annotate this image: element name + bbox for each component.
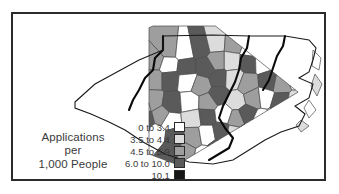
map-frame: Applications per 1,000 People 0 to 3.43.… — [11, 12, 326, 181]
legend-key-row: 6.0 to 10.0 — [125, 157, 185, 169]
county-region — [177, 58, 196, 75]
legend-key-swatch — [174, 146, 185, 156]
legend-key-label: 10.1 — [151, 170, 170, 181]
legend-key-label: 6.0 to 10.0 — [125, 158, 170, 169]
legend-title: Applications per 1,000 People — [27, 131, 119, 172]
county-region — [273, 75, 292, 93]
legend-key-swatch — [174, 170, 185, 180]
barrier-island-region — [304, 100, 316, 118]
legend-key-list: 0 to 3.43.5 to 4.44.5 to 5.96.0 to 10.01… — [125, 121, 185, 181]
legend-key-label: 4.5 to 5.9 — [130, 146, 170, 157]
county-region — [162, 72, 179, 92]
legend-key-swatch — [174, 122, 185, 132]
legend-title-line-2: per — [27, 144, 119, 158]
legend-key-label: 3.5 to 4.4 — [130, 134, 170, 145]
legend-title-line-3: 1,000 People — [27, 158, 119, 172]
legend-title-line-1: Applications — [27, 131, 119, 145]
map-legend: Applications per 1,000 People 0 to 3.43.… — [27, 118, 212, 184]
legend-key-row: 3.5 to 4.4 — [125, 133, 185, 145]
figure-container: Applications per 1,000 People 0 to 3.43.… — [0, 0, 339, 194]
county-region — [224, 51, 240, 70]
legend-key-swatch — [174, 134, 185, 144]
county-region — [224, 34, 242, 54]
legend-key-row: 0 to 3.4 — [125, 121, 185, 133]
legend-key-label: 0 to 3.4 — [138, 122, 170, 133]
legend-key-row: 10.1 — [125, 169, 185, 181]
legend-key-row: 4.5 to 5.9 — [125, 145, 185, 157]
legend-key-swatch — [174, 158, 185, 168]
